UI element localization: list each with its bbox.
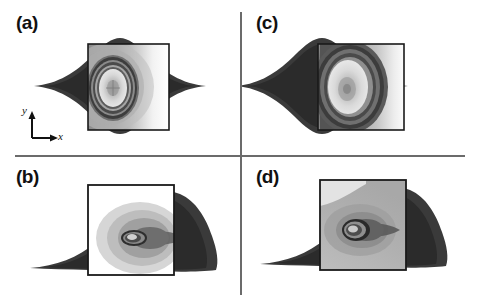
panel-c-label: (c) — [256, 12, 278, 34]
panel-c-contour-rings — [312, 41, 388, 133]
panel-b-label: (b) — [16, 166, 39, 188]
axis-indicator: y x — [14, 104, 72, 148]
axis-label-x: x — [58, 130, 63, 142]
panel-a-label: (a) — [16, 12, 38, 34]
panel-a: (a) — [0, 0, 241, 153]
axis-label-y: y — [22, 104, 27, 116]
panel-b-contour-rings — [121, 230, 147, 246]
panel-b: (b) — [0, 154, 241, 307]
panel-c-inset-field — [312, 41, 404, 133]
panel-c-plot — [242, 0, 483, 153]
panel-b-inset-field — [88, 185, 186, 275]
panel-d: (d) — [242, 154, 483, 307]
panel-d-inset-field — [320, 180, 406, 270]
panel-c-svg — [242, 0, 483, 153]
panel-d-contour-rings — [342, 219, 370, 241]
panel-c: (c) — [242, 0, 483, 153]
panel-d-label: (d) — [256, 166, 279, 188]
panel-a-contour-rings — [87, 55, 139, 121]
figure-root: (a) — [0, 0, 483, 307]
